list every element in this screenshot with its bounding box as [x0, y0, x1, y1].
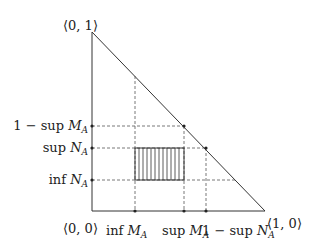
- dot-x-one-minus-sup-N: [204, 209, 207, 212]
- x-label-one-minus-sup-N: 1 − sup NA: [202, 223, 275, 240]
- hatched-rectangle: [135, 148, 184, 180]
- y-label-one-minus-sup-M: 1 − sup MA: [13, 118, 88, 135]
- dot-y-sup-N: [90, 146, 93, 149]
- dot-hyp-one-minus-sup-M: [182, 124, 185, 127]
- marker-dots: [90, 124, 207, 212]
- diagram-canvas: ⟨0, 1⟩ ⟨0, 0⟩ ⟨1, 0⟩ 1 − sup MA sup NA i…: [0, 0, 310, 250]
- dot-y-one-minus-sup-M: [90, 124, 93, 127]
- vertex-top-label: ⟨0, 1⟩: [63, 18, 98, 33]
- dot-x-inf-M: [133, 209, 136, 212]
- vertex-right-label: ⟨1, 0⟩: [267, 216, 302, 231]
- x-label-inf-M: inf MA: [106, 223, 148, 240]
- y-label-sup-N: sup NA: [43, 140, 89, 157]
- dot-y-inf-N: [90, 178, 93, 181]
- hypotenuse: [92, 32, 265, 211]
- dot-x-sup-M: [182, 209, 185, 212]
- dashed-guides: [92, 76, 236, 211]
- y-label-inf-N: inf NA: [49, 172, 89, 189]
- dot-hyp-sup-N: [204, 146, 207, 149]
- vertex-origin-label: ⟨0, 0⟩: [63, 221, 98, 236]
